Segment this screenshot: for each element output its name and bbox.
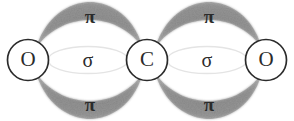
atom-label-carbon-center: C bbox=[127, 49, 167, 70]
pi-label-right-top: π bbox=[194, 7, 224, 26]
pi-label-left-bottom: π bbox=[75, 95, 105, 114]
atom-label-oxygen-left: O bbox=[8, 49, 48, 70]
sigma-label-right: σ bbox=[192, 50, 222, 70]
pi-label-right-bottom: π bbox=[194, 95, 224, 114]
pi-label-left-top: π bbox=[75, 7, 105, 26]
sigma-label-left: σ bbox=[73, 50, 103, 70]
atom-label-oxygen-right: O bbox=[246, 49, 286, 70]
co2-bonding-diagram: O C O σ σ π π π π bbox=[0, 0, 294, 121]
